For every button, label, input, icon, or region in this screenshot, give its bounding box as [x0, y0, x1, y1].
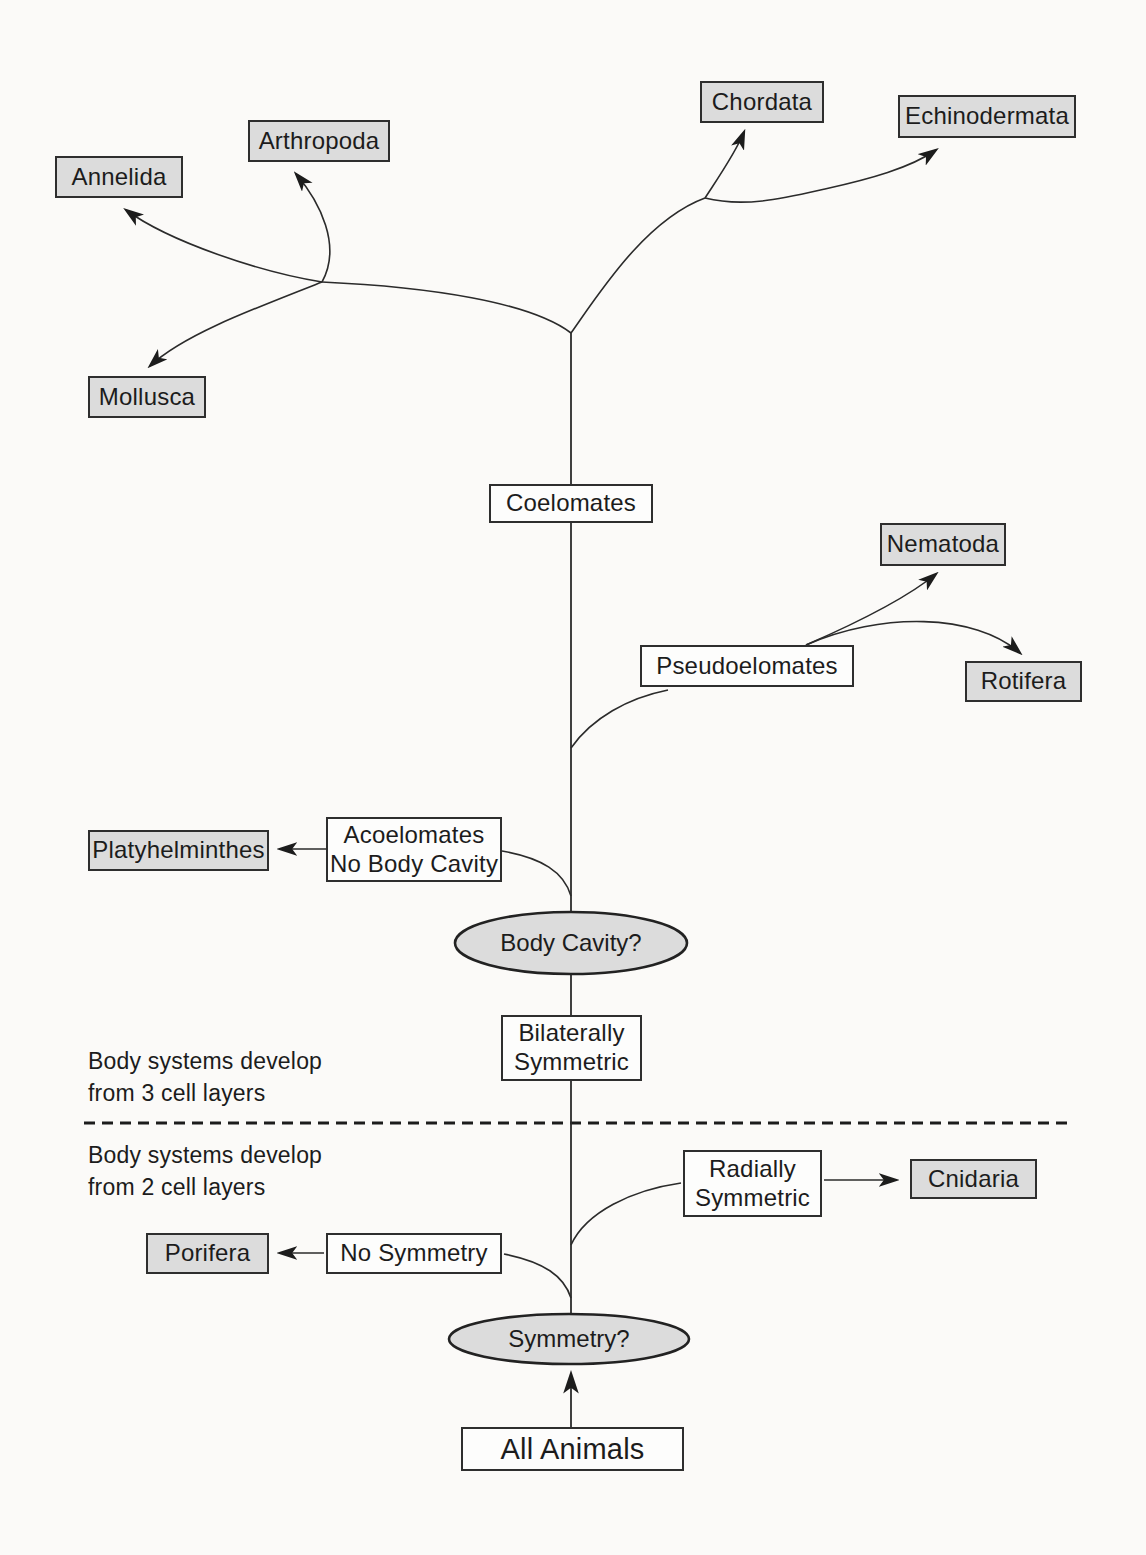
node-cnidaria: Cnidaria — [910, 1159, 1037, 1199]
branch-right-bundle — [571, 198, 705, 333]
node-nematoda: Nematoda — [880, 523, 1006, 566]
branch-mollusca — [150, 282, 322, 366]
branch-radially-symmetric — [571, 1183, 681, 1245]
branch-echinodermata — [705, 150, 936, 202]
acoelomates-line1: Acoelomates — [344, 821, 485, 850]
two-cell-layers-line2: from 2 cell layers — [88, 1172, 322, 1204]
bilateral-line2: Symmetric — [514, 1048, 629, 1077]
radial-line2: Symmetric — [695, 1184, 810, 1213]
three-cell-layers-line1: Body systems develop — [88, 1046, 322, 1078]
node-all-animals: All Animals — [461, 1427, 684, 1471]
node-no-symmetry: No Symmetry — [326, 1233, 502, 1274]
branch-acoelomates — [502, 851, 571, 896]
node-pseudoelomates: Pseudoelomates — [640, 645, 854, 687]
branch-left-bundle — [322, 282, 571, 333]
branch-pseudoelomates — [571, 690, 668, 748]
branch-no-symmetry — [504, 1254, 571, 1298]
two-cell-layers-annotation: Body systems develop from 2 cell layers — [88, 1140, 322, 1203]
node-platyhelminthes: Platyhelminthes — [88, 830, 269, 871]
body-cavity-decision-label: Body Cavity? — [455, 912, 687, 974]
node-chordata: Chordata — [700, 81, 824, 123]
node-mollusca: Mollusca — [88, 376, 206, 418]
symmetry-decision-label: Symmetry? — [449, 1314, 689, 1364]
node-echinodermata: Echinodermata — [898, 95, 1076, 138]
node-bilaterally-symmetric: Bilaterally Symmetric — [501, 1015, 642, 1081]
node-radially-symmetric: Radially Symmetric — [683, 1150, 822, 1217]
branch-annelida — [126, 210, 322, 282]
two-cell-layers-line1: Body systems develop — [88, 1140, 322, 1172]
node-arthropoda: Arthropoda — [248, 120, 390, 162]
acoelomates-line2: No Body Cavity — [330, 850, 498, 879]
node-rotifera: Rotifera — [965, 661, 1082, 702]
radial-line1: Radially — [709, 1155, 796, 1184]
three-cell-layers-line2: from 3 cell layers — [88, 1078, 322, 1110]
three-cell-layers-annotation: Body systems develop from 3 cell layers — [88, 1046, 322, 1109]
node-coelomates: Coelomates — [489, 484, 653, 523]
phylogeny-flowchart: Annelida Arthropoda Chordata Echinoderma… — [0, 0, 1146, 1555]
branch-chordata — [705, 132, 744, 198]
node-annelida: Annelida — [55, 156, 183, 198]
branch-arthropoda — [296, 174, 330, 282]
branch-nematoda — [806, 574, 936, 645]
node-porifera: Porifera — [146, 1233, 269, 1274]
bilateral-line1: Bilaterally — [518, 1019, 624, 1048]
node-acoelomates: Acoelomates No Body Cavity — [326, 817, 502, 882]
